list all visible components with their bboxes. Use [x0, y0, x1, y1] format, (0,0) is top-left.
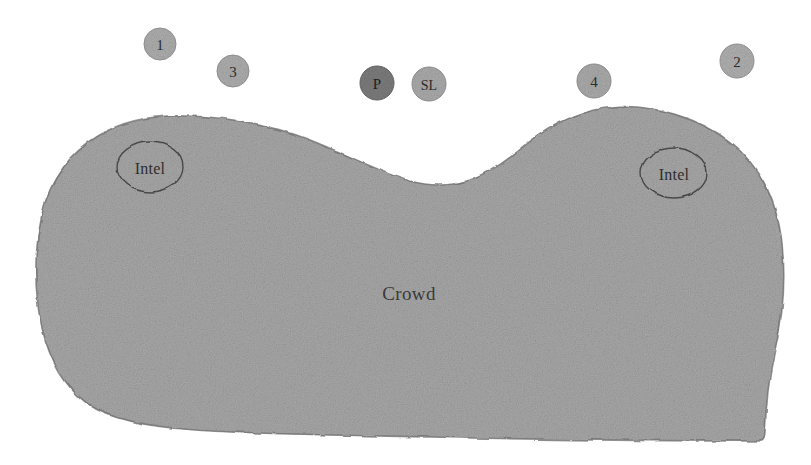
unit-marker-2-label: 2 — [733, 54, 741, 70]
unit-marker-sl[interactable]: SL — [412, 67, 446, 101]
intel-marker-left-label: Intel — [135, 160, 166, 177]
unit-marker-2[interactable]: 2 — [720, 44, 754, 78]
unit-marker-p[interactable]: P — [360, 66, 394, 100]
unit-marker-1-label: 1 — [156, 37, 164, 53]
unit-marker-1[interactable]: 1 — [144, 28, 176, 60]
intel-marker-right-label: Intel — [659, 166, 690, 183]
crowd-mass-texture — [36, 107, 784, 441]
unit-marker-4[interactable]: 4 — [577, 64, 611, 98]
unit-marker-3[interactable]: 3 — [217, 55, 249, 87]
unit-marker-4-label: 4 — [590, 74, 598, 90]
crowd-label: Crowd — [382, 283, 436, 304]
crowd-diagram: Crowd Intel Intel 1 3 P — [0, 0, 811, 465]
crowd-mass-group — [36, 107, 784, 441]
unit-marker-p-label: P — [373, 76, 381, 92]
unit-marker-3-label: 3 — [229, 64, 237, 80]
diagram-page: Crowd Intel Intel 1 3 P — [0, 0, 811, 465]
unit-marker-sl-label: SL — [421, 78, 437, 93]
